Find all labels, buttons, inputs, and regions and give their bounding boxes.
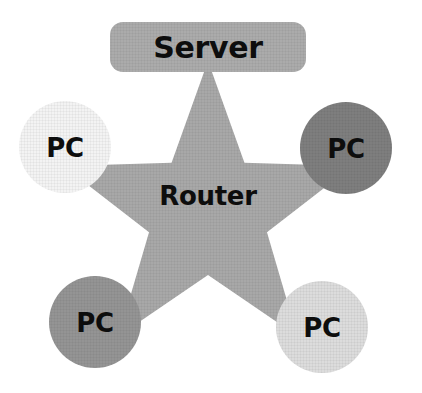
server-node[interactable]: Server [110, 22, 306, 72]
pc-top-left-label: PC [46, 133, 84, 163]
pc-top-right[interactable]: PC [300, 102, 392, 194]
server-label: Server [153, 30, 263, 65]
router-label: Router [159, 181, 257, 211]
pc-top-left[interactable]: PC [19, 101, 111, 193]
pc-bottom-right[interactable]: PC [276, 281, 368, 373]
pc-bottom-left-label: PC [76, 308, 114, 338]
pc-bottom-left[interactable]: PC [49, 276, 141, 368]
pc-bottom-right-label: PC [303, 313, 341, 343]
network-topology-diagram: Router Server PCPCPCPC [0, 0, 422, 393]
diagram-canvas: Router Server PCPCPCPC [0, 0, 422, 393]
pc-top-right-label: PC [327, 134, 365, 164]
